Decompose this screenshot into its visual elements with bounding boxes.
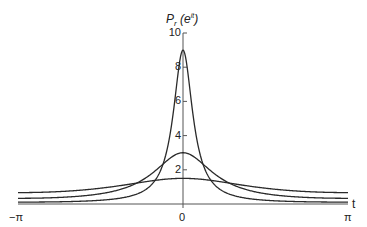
- x-tick-label: −π: [9, 212, 23, 223]
- axes: [18, 33, 348, 208]
- y-tick-label: 8: [175, 61, 181, 72]
- poisson-kernel-chart: [0, 0, 367, 227]
- y-tick-label: 10: [169, 27, 181, 38]
- x-axis-label: t: [352, 198, 355, 210]
- y-tick-label: 4: [175, 130, 181, 141]
- y-tick-label: 6: [175, 95, 181, 106]
- y-tick-label: 2: [175, 164, 181, 175]
- x-tick-label: 0: [179, 212, 185, 223]
- x-tick-label: π: [344, 212, 352, 223]
